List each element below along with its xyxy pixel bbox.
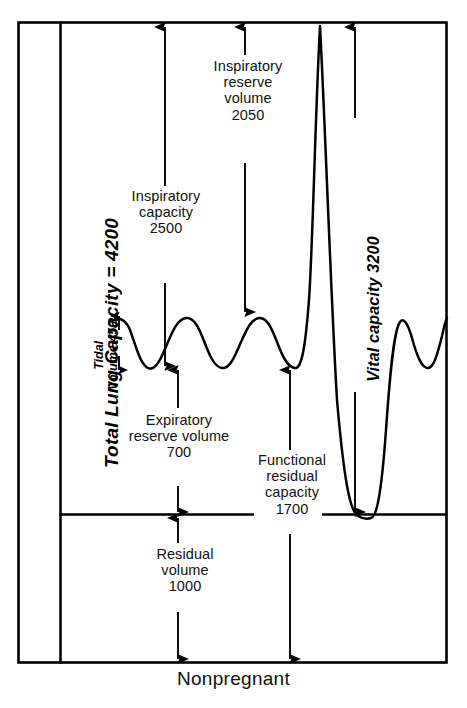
tidal-volume-label: Tidal Volume 450 [92, 285, 121, 425]
figure-caption: Nonpregnant [0, 668, 467, 690]
spirogram-figure: Total Lung Capacity = 4200 Vital capacit… [0, 0, 467, 708]
spirogram-drawing [0, 0, 467, 708]
annotation-arrows [119, 27, 355, 659]
vital-capacity-label: Vital capacity 3200 [365, 159, 383, 459]
